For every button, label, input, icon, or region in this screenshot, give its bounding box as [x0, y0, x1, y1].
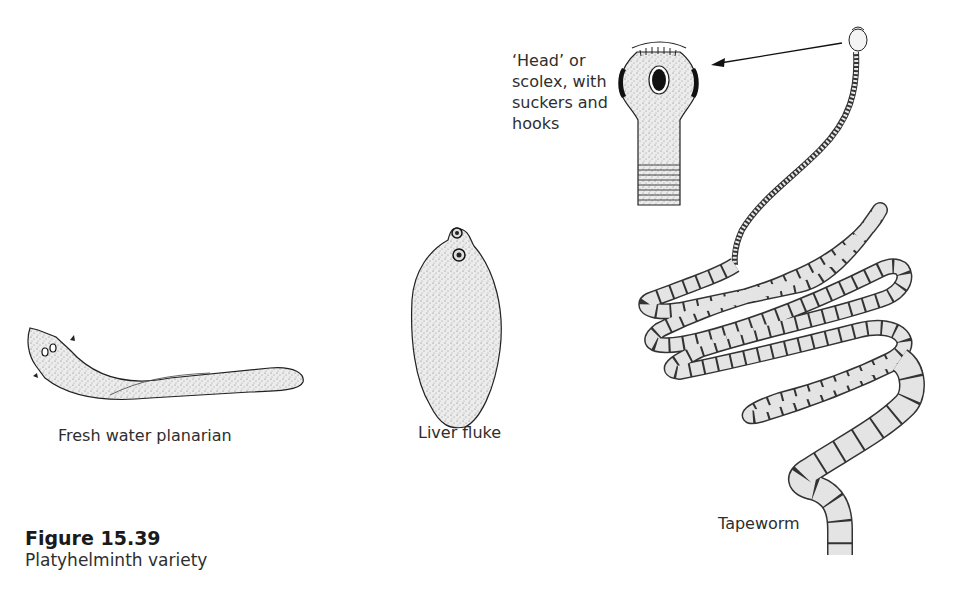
callout-line: scolex, with [512, 71, 608, 92]
callout-arrow [711, 43, 842, 67]
planarian-illustration [28, 328, 303, 399]
callout-line: ‘Head’ or [512, 50, 608, 71]
sucker-icon [652, 69, 666, 91]
arrowhead-icon [711, 58, 725, 67]
callout-line: suckers and [512, 92, 608, 113]
tapeworm-label: Tapeworm [718, 513, 800, 534]
liver-fluke-illustration [412, 228, 502, 428]
scolex-enlarged-illustration [618, 42, 699, 205]
planarian-label: Fresh water planarian [58, 425, 232, 446]
figure-number: Figure 15.39 [25, 527, 161, 549]
figure-caption: Platyhelminth variety [25, 550, 207, 570]
scolex-callout-label: ‘Head’ or scolex, with suckers and hooks [512, 50, 608, 134]
illustration-canvas [0, 0, 953, 592]
eyespot-icon [50, 344, 56, 352]
liver-fluke-label: Liver fluke [418, 422, 501, 443]
eyespot-icon [42, 348, 48, 356]
callout-line: hooks [512, 113, 608, 134]
